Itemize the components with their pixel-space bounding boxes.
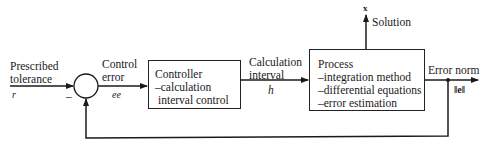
process-line-3: –error estimation (318, 97, 424, 110)
input-symbol: r (12, 88, 16, 101)
control-error-label-line1: Control (102, 58, 137, 71)
controller-title: Controller (155, 68, 240, 81)
solution-label: Solution (372, 16, 411, 29)
controller-block: Controller –calculation interval control (148, 60, 241, 109)
minus-sign: – (66, 90, 72, 103)
control-error-label-line2: error (102, 71, 124, 84)
input-label-line1: Prescribed (10, 60, 59, 73)
controller-line-2: interval control (155, 94, 240, 107)
process-line-2: –differential equations (318, 84, 424, 97)
controller-line-1: –calculation (155, 81, 240, 94)
error-norm-symbol: ‖e‖ (454, 83, 465, 96)
process-block: Process –integration method –differentia… (309, 49, 425, 111)
error-norm-label: Error norm (428, 64, 479, 77)
calc-interval-label-line2: interval (249, 69, 284, 82)
summing-junction-circle (74, 74, 98, 98)
control-error-symbol: ee (112, 88, 121, 101)
input-label-line2: tolerance (10, 73, 52, 86)
process-line-1: –integration method (318, 71, 424, 84)
solution-symbol: x (363, 2, 368, 15)
calc-interval-label-line1: Calculation (249, 56, 302, 69)
calc-interval-symbol: h (268, 84, 274, 97)
process-title: Process (318, 58, 424, 71)
